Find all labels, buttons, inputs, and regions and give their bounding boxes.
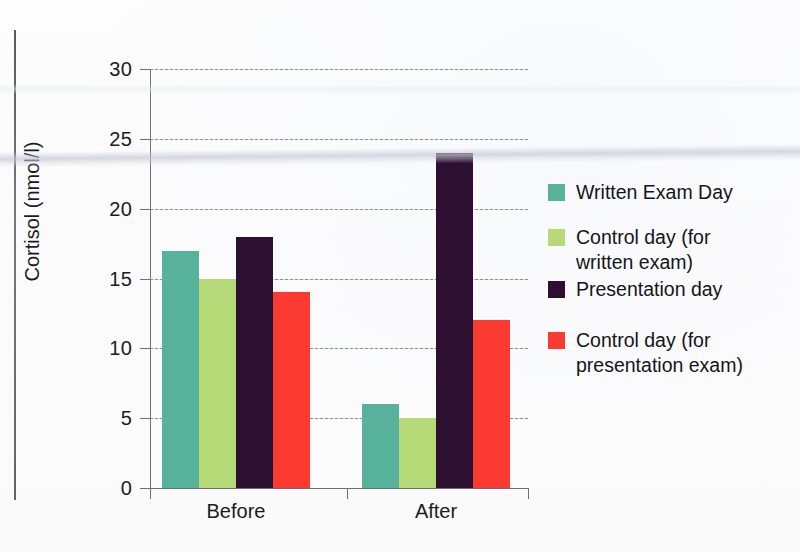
- bar-before-series-1: [199, 279, 236, 489]
- y-tick-label-25: 25: [88, 127, 132, 150]
- legend-item-3: Control day (forpresentation exam): [548, 328, 792, 378]
- legend-swatch-icon-1: [548, 229, 565, 246]
- x-tick-1: [347, 488, 348, 499]
- bar-before-series-2: [236, 237, 273, 488]
- legend-label-3: Control day (forpresentation exam): [576, 328, 743, 378]
- bar-before-series-3: [273, 292, 310, 488]
- y-tick-25: [140, 139, 150, 140]
- y-tick-label-10: 10: [88, 337, 132, 360]
- bar-after-series-3: [473, 320, 510, 488]
- bar-before-series-0: [162, 251, 199, 488]
- y-tick-10: [140, 348, 150, 349]
- legend-swatch-icon-2: [548, 281, 565, 298]
- y-axis-title: Cortisol (nmol/l): [21, 62, 44, 362]
- legend-label-1: Control day (forwritten exam): [576, 225, 710, 275]
- bar-after-series-0: [362, 404, 399, 488]
- legend-swatch-icon-3: [548, 332, 565, 349]
- legend-item-1: Control day (forwritten exam): [548, 225, 792, 275]
- y-tick-label-0: 0: [88, 477, 132, 500]
- bar-chart: 051015202530 Cortisol (nmol/l) BeforeAft…: [0, 0, 800, 552]
- y-tick-label-15: 15: [88, 267, 132, 290]
- y-tick-label-5: 5: [88, 407, 132, 430]
- plot-area: [150, 69, 528, 488]
- x-tick-0: [150, 488, 151, 499]
- legend-item-2: Presentation day: [548, 277, 792, 302]
- x-tick-2: [528, 488, 529, 499]
- y-tick-label-20: 20: [88, 197, 132, 220]
- legend-item-0: Written Exam Day: [548, 180, 792, 205]
- bar-after-series-2: [436, 153, 473, 488]
- gridline-0: [150, 488, 528, 489]
- y-tick-15: [140, 279, 150, 280]
- y-tick-20: [140, 209, 150, 210]
- y-tick-30: [140, 69, 150, 70]
- x-tick-label-after: After: [356, 500, 516, 523]
- x-tick-label-before: Before: [156, 500, 316, 523]
- legend-label-0: Written Exam Day: [576, 180, 733, 205]
- legend-label-2: Presentation day: [576, 277, 722, 302]
- bar-after-series-1: [399, 418, 436, 488]
- y-tick-5: [140, 418, 150, 419]
- y-tick-0: [140, 488, 150, 489]
- legend-swatch-icon-0: [548, 184, 565, 201]
- chart-legend: Written Exam DayControl day (forwritten …: [548, 180, 792, 398]
- y-tick-label-30: 30: [88, 58, 132, 81]
